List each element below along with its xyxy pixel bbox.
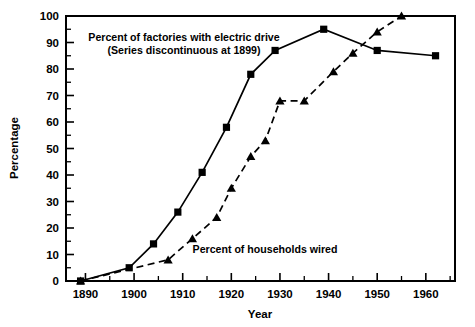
data-point-square	[199, 169, 206, 176]
data-point-triangle	[212, 213, 221, 221]
chart-container: 0102030405060708090100 18901900191019201…	[0, 0, 475, 327]
factories-annotation-line-1: Percent of factories with electric drive	[88, 31, 279, 43]
x-tick-label: 1900	[121, 288, 147, 300]
y-axis-tick-labels: 0102030405060708090100	[40, 10, 59, 287]
x-axis-title: Year	[248, 308, 273, 320]
data-point-square	[374, 47, 381, 54]
x-tick-label: 1890	[73, 288, 99, 300]
y-tick-label: 80	[46, 63, 59, 75]
y-tick-label: 40	[46, 169, 59, 181]
y-tick-label: 20	[46, 222, 59, 234]
data-point-square	[174, 209, 181, 216]
data-point-square	[320, 26, 327, 33]
y-tick-label: 50	[46, 143, 59, 155]
y-tick-label: 30	[46, 196, 59, 208]
data-point-square	[223, 124, 230, 131]
data-point-triangle	[373, 28, 382, 36]
x-tick-label: 1950	[364, 288, 390, 300]
data-point-triangle	[246, 152, 255, 160]
chart-annotations: Percent of factories with electric drive…	[88, 31, 337, 255]
x-tick-label: 1930	[267, 288, 293, 300]
y-tick-label: 10	[46, 249, 59, 261]
households-annotation: Percent of households wired	[193, 243, 338, 255]
data-point-square	[247, 71, 254, 78]
x-axis-tick-labels: 18901900191019201930194019501960	[73, 288, 439, 300]
y-tick-label: 70	[46, 90, 59, 102]
data-point-square	[432, 52, 439, 59]
factories-annotation: Percent of factories with electric drive…	[88, 31, 279, 56]
households-annotation-line-1: Percent of households wired	[193, 243, 338, 255]
y-tick-label: 60	[46, 116, 59, 128]
x-tick-label: 1910	[170, 288, 196, 300]
data-point-triangle	[261, 136, 270, 144]
y-tick-label: 90	[46, 37, 59, 49]
line-chart: 0102030405060708090100 18901900191019201…	[0, 0, 475, 327]
data-point-square	[126, 264, 133, 271]
factories-annotation-line-2: (Series discontinuous at 1899)	[107, 44, 260, 56]
y-tick-label: 0	[53, 275, 59, 287]
x-tick-label: 1920	[219, 288, 245, 300]
x-tick-label: 1960	[413, 288, 439, 300]
data-point-square	[150, 240, 157, 247]
x-tick-label: 1940	[316, 288, 342, 300]
y-axis-title: Percentage	[8, 117, 20, 179]
data-point-triangle	[227, 184, 236, 192]
y-tick-label: 100	[40, 10, 59, 22]
data-point-square	[271, 47, 278, 54]
